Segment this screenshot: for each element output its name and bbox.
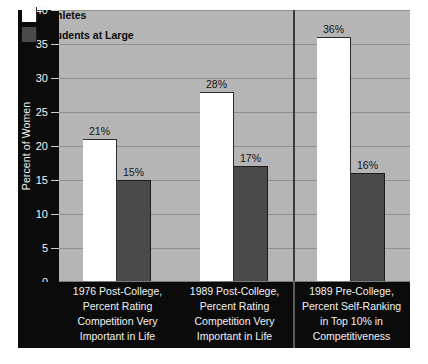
- x-axis-category-label: 1989 Pre-College,Percent Self-Rankingin …: [293, 284, 410, 344]
- x-axis-category-label-line: Important in Life: [176, 329, 293, 344]
- bar-value-label: 21%: [77, 125, 123, 137]
- legend-item-students-at-large: Students at Large: [22, 26, 134, 43]
- x-axis-category-label-line: Competition Very: [176, 314, 293, 329]
- bar-chart-figure: Percent of Women 4035302520151050 21%15%…: [0, 0, 428, 364]
- y-axis-tick-mark: [51, 78, 59, 79]
- y-axis-tick-mark: [51, 112, 59, 113]
- bar-athletes: [83, 139, 117, 282]
- x-axis-category-label-line: Percent Self-Ranking: [293, 299, 410, 314]
- x-axis-label-panel: 1976 Post-College,Percent RatingCompetit…: [18, 282, 410, 348]
- x-axis-category-label: 1976 Post-College,Percent RatingCompetit…: [59, 284, 176, 344]
- y-axis-tick-mark: [51, 146, 59, 147]
- x-axis-category-label-line: Competitiveness: [293, 329, 410, 344]
- bar-students-at-large: [234, 166, 268, 282]
- legend: Athletes Students at Large: [22, 6, 134, 46]
- plot-area: 21%15%28%17%36%16%: [59, 10, 410, 282]
- bar-students-at-large: [117, 180, 151, 282]
- white-swatch-icon: [22, 7, 37, 22]
- gridline: [59, 112, 410, 113]
- group-divider-line: [293, 10, 295, 282]
- x-axis-category-label-line: Important in Life: [59, 329, 176, 344]
- bar-value-label: 17%: [228, 152, 274, 164]
- y-axis-tick-mark: [51, 180, 59, 181]
- x-axis-category-label-line: in Top 10% in: [293, 314, 410, 329]
- x-axis-category-label-line: Percent Rating: [59, 299, 176, 314]
- legend-label-students-at-large: Students at Large: [45, 29, 134, 41]
- bar-value-label: 36%: [311, 23, 357, 35]
- legend-label-athletes: Athletes: [45, 9, 86, 21]
- x-axis-category-label-line: 1989 Pre-College,: [293, 284, 410, 299]
- bar-students-at-large: [351, 173, 385, 282]
- legend-item-athletes: Athletes: [22, 6, 134, 23]
- x-axis-category-label-line: Percent Rating: [176, 299, 293, 314]
- x-axis-category-label-line: 1976 Post-College,: [59, 284, 176, 299]
- x-axis-category-label: 1989 Post-College,Percent RatingCompetit…: [176, 284, 293, 344]
- x-axis-category-label-line: Competition Very: [59, 314, 176, 329]
- bar-athletes: [200, 92, 234, 282]
- x-axis-category-label-line: 1989 Post-College,: [176, 284, 293, 299]
- bar-value-label: 28%: [194, 78, 240, 90]
- y-axis-tick-mark: [51, 248, 59, 249]
- dark-gray-swatch-icon: [22, 27, 37, 42]
- bar-value-label: 15%: [111, 166, 157, 178]
- y-axis-tick-mark: [51, 214, 59, 215]
- bar-value-label: 16%: [345, 159, 391, 171]
